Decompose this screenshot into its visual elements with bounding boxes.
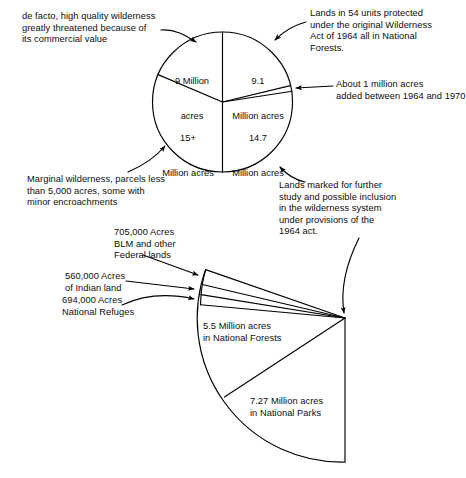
pie-label-9point1-line1: 9.1 — [226, 76, 290, 88]
leader-indian — [126, 281, 194, 289]
pie-label-14point7-line1: 14.7 — [226, 133, 290, 145]
annotation-top-right: Lands in 54 units protected under the or… — [310, 8, 432, 54]
fan-label-national-parks: 7.27 Million acres in National Parks — [250, 396, 323, 419]
fan-divider-blm — [202, 285, 345, 319]
leader-act-to-fan — [343, 238, 359, 313]
fan-arc-cap-refuges — [201, 295, 202, 305]
pie-label-14point7-million: 14.7 Million acres — [226, 110, 290, 203]
annotation-bottom-right: Lands marked for further study and possi… — [279, 180, 396, 238]
annotation-right-mid: About 1 million acres added between 1964… — [336, 79, 466, 102]
leader-top-right — [275, 22, 306, 40]
leader-right-mid — [296, 86, 333, 88]
fan-label-blm: 705,000 Acres BLM and other Federal land… — [114, 227, 176, 262]
pie-label-15plus-million: 15+ Million acres — [155, 110, 221, 203]
fan-label-indian: 560,000 Acres of Indian land — [65, 271, 125, 294]
fan-edge-top — [206, 270, 345, 318]
pie-label-15plus-line2: Million acres — [155, 168, 221, 180]
annotation-bottom-left: Marginal wilderness, parcels less than 5… — [27, 174, 165, 209]
pie-label-15plus-line1: 15+ — [155, 133, 221, 145]
pie-label-9-million-line1: 9 Million — [162, 76, 222, 88]
fan-label-national-forests: 5.5 Million acres in National Forests — [203, 321, 281, 344]
pie-label-14point7-line2: Million acres — [226, 168, 290, 180]
fan-label-refuges: 694,000 Acres National Refuges — [62, 295, 134, 318]
annotation-top-left: de facto, high quality wilderness greatl… — [22, 11, 155, 46]
